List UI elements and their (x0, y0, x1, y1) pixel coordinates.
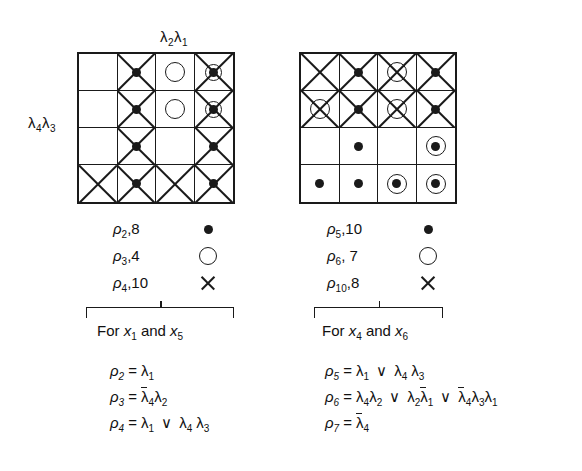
legend-row: ρ5,10 (327, 218, 487, 245)
x-cross-icon (195, 272, 221, 294)
kmap-cell[interactable] (301, 165, 340, 202)
kmap-cell[interactable] (118, 91, 157, 128)
kmap-cell[interactable] (301, 91, 340, 128)
equation: ρ4 =λ1∨λ4λ3 (110, 414, 209, 440)
kmap-cell[interactable] (79, 128, 118, 165)
open-circle-icon (387, 99, 407, 119)
filled-dot-icon (132, 142, 141, 151)
left-group-bracket (86, 307, 234, 318)
open-circle-icon (310, 99, 330, 119)
kmap-cell[interactable] (156, 91, 195, 128)
legend-label: ρ5,10 (327, 220, 362, 240)
filled-dot-icon (132, 105, 141, 114)
kmap-cell[interactable] (79, 54, 118, 91)
kmap-cell[interactable] (79, 91, 118, 128)
legend-row: ρ4,10 (113, 272, 263, 299)
open-circle-icon (387, 62, 407, 82)
filled-dot-icon (354, 142, 363, 151)
left-map-top-axis-label: λ2λ1 (160, 28, 188, 48)
filled-dot-icon (132, 179, 141, 188)
legend-label: ρ2,8 (113, 220, 140, 240)
kmap-cell[interactable] (340, 165, 379, 202)
kmap-cell[interactable] (118, 128, 157, 165)
legend-label: ρ10,8 (327, 274, 359, 294)
legend-label: ρ6, 7 (327, 247, 358, 267)
kmap-cell[interactable] (378, 165, 417, 202)
legend-row: ρ10,8 (327, 272, 487, 299)
equation: ρ5 =λ1∨λ4λ3 (325, 362, 498, 388)
filled-dot-icon (415, 218, 441, 240)
legend-row: ρ2,8 (113, 218, 263, 245)
kmap-cell[interactable] (417, 128, 456, 165)
x-cross-icon (156, 165, 194, 202)
kmap-cell[interactable] (301, 54, 340, 91)
kmap-cell[interactable] (417, 91, 456, 128)
kmap-cell[interactable] (156, 54, 195, 91)
figure-canvas: λ2λ1 λ4λ3 (0, 0, 582, 471)
filled-dot-icon (354, 68, 363, 77)
kmap-cell[interactable] (156, 128, 195, 165)
open-circle-icon (415, 245, 441, 267)
open-circle-icon (195, 245, 221, 267)
right-legend: ρ5,10 ρ6, 7 ρ10,8 (327, 218, 487, 299)
left-caption: For x1 and x5 (97, 322, 183, 342)
kmap-cell[interactable] (301, 128, 340, 165)
left-karnaugh-map[interactable] (77, 52, 235, 204)
kmap-cell[interactable] (195, 91, 234, 128)
kmap-cell[interactable] (195, 128, 234, 165)
equation: ρ2 =λ1 (110, 362, 209, 388)
equation: ρ6 =λ4λ2∨λ2λ1∨λ4λ3λ1 (325, 388, 498, 414)
filled-dot-icon (431, 68, 440, 77)
filled-dot-icon (431, 105, 440, 114)
kmap-cell[interactable] (118, 165, 157, 202)
right-group-bracket (314, 307, 443, 318)
legend-label: ρ4,10 (113, 274, 148, 294)
legend-row: ρ6, 7 (327, 245, 487, 272)
filled-dot-icon (354, 105, 363, 114)
kmap-cell[interactable] (340, 91, 379, 128)
kmap-cell[interactable] (195, 165, 234, 202)
x-cross-icon (79, 165, 117, 202)
filled-dot-icon (354, 179, 363, 188)
filled-dot-icon (195, 218, 221, 240)
kmap-cell[interactable] (340, 54, 379, 91)
filled-dot-icon (209, 105, 218, 114)
equation: ρ7 =λ4 (325, 414, 498, 440)
kmap-cell[interactable] (156, 165, 195, 202)
kmap-cell[interactable] (195, 54, 234, 91)
filled-dot-icon (132, 68, 141, 77)
kmap-cell[interactable] (378, 54, 417, 91)
legend-row: ρ3,4 (113, 245, 263, 272)
equation: ρ3 =λ4λ2 (110, 388, 209, 414)
x-cross-icon (415, 272, 441, 294)
left-map-left-axis-label: λ4λ3 (28, 114, 56, 134)
right-karnaugh-map[interactable] (299, 52, 457, 204)
filled-dot-icon (315, 179, 324, 188)
x-cross-icon (301, 54, 339, 90)
filled-dot-icon (431, 142, 440, 151)
right-caption: For x4 and x6 (322, 322, 408, 342)
filled-dot-icon (209, 68, 218, 77)
filled-dot-icon (209, 142, 218, 151)
right-equations: ρ5 =λ1∨λ4λ3 ρ6 =λ4λ2∨λ2λ1∨λ4λ3λ1 ρ7 =λ4 (325, 362, 498, 440)
left-legend: ρ2,8 ρ3,4 ρ4,10 (113, 218, 263, 299)
kmap-cell[interactable] (79, 165, 118, 202)
kmap-cell[interactable] (417, 54, 456, 91)
legend-label: ρ3,4 (113, 247, 140, 267)
kmap-cell[interactable] (340, 128, 379, 165)
kmap-cell[interactable] (378, 91, 417, 128)
kmap-cell[interactable] (417, 165, 456, 202)
left-equations: ρ2 =λ1 ρ3 =λ4λ2 ρ4 =λ1∨λ4λ3 (110, 362, 209, 440)
open-circle-icon (165, 62, 185, 82)
kmap-cell[interactable] (378, 128, 417, 165)
open-circle-icon (165, 99, 185, 119)
kmap-cell[interactable] (118, 54, 157, 91)
